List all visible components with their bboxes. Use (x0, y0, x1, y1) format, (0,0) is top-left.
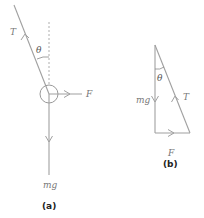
label-weight-b: mg (136, 95, 151, 105)
diagram-b: θ mg T F (b) (136, 45, 190, 169)
label-tension-b: T (183, 92, 190, 102)
diagram-a: T θ F mg (a) (10, 5, 93, 211)
string-line (14, 5, 49, 94)
label-tension-a: T (10, 27, 17, 37)
caption-b: (b) (163, 159, 178, 169)
label-force-b: F (167, 148, 175, 158)
caption-a: (a) (42, 201, 56, 211)
angle-arc-b (155, 67, 164, 69)
label-angle-b: θ (157, 73, 163, 83)
label-weight-a: mg (43, 180, 58, 190)
label-force-a: F (85, 89, 93, 99)
angle-arc (37, 57, 49, 59)
tension-t-side (155, 45, 190, 133)
label-angle-a: θ (36, 45, 42, 55)
force-diagrams: T θ F mg (a) θ mg T F (b) (0, 0, 204, 218)
